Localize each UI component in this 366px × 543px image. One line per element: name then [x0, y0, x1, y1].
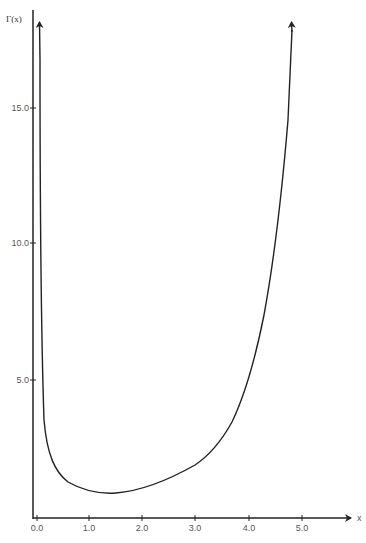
gamma-curve-left-arrow — [40, 22, 41, 60]
x-tick-label: 0.0 — [31, 523, 44, 533]
gamma-function-chart: Γ(x) x 0.0 1.0 2.0 3.0 4.0 5.0 5.0 10.0 … — [0, 0, 366, 543]
y-axis-label: Γ(x) — [6, 14, 22, 24]
x-tick-label: 1.0 — [83, 523, 96, 533]
y-tick-label: 10.0 — [11, 238, 29, 248]
x-axis-label: x — [357, 513, 362, 523]
x-tick-label: 2.0 — [136, 523, 149, 533]
x-tick-label: 5.0 — [296, 523, 309, 533]
x-tick-label: 4.0 — [243, 523, 256, 533]
gamma-curve-right-arrow — [292, 22, 293, 32]
x-tick-label: 3.0 — [189, 523, 202, 533]
y-tick-label: 5.0 — [16, 375, 29, 385]
gamma-curve — [40, 30, 292, 493]
y-tick-label: 15.0 — [11, 103, 29, 113]
